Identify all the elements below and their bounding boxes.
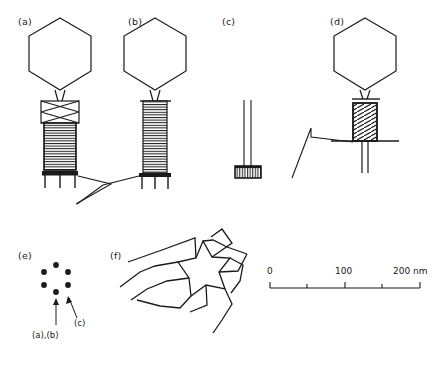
annotation-arrow-c xyxy=(66,296,77,318)
capsid-head-a xyxy=(29,18,91,90)
tail-sheath-a xyxy=(44,123,76,170)
subunit-dot xyxy=(65,269,71,275)
phage-diagram-svg xyxy=(0,0,439,374)
collar-a xyxy=(41,101,79,123)
tail-sheath-b xyxy=(143,101,167,173)
panel-c-tail-tube xyxy=(235,100,261,178)
panel-label-c: (c) xyxy=(222,16,235,27)
panel-e-cross-section xyxy=(41,262,77,325)
annotation-label-ab: (a),(b) xyxy=(32,330,59,340)
figure-canvas: (a) (b) (c) (d) (e) (f) (a),(b) (c) 0 10… xyxy=(0,0,439,374)
subunit-dot xyxy=(53,262,59,268)
tail-fiber-b xyxy=(77,176,139,204)
tail-fiber-d xyxy=(292,128,353,178)
tail-pins-b xyxy=(142,177,168,189)
pinwheel-arm-f xyxy=(128,238,196,262)
neck-d xyxy=(360,90,370,99)
subunit-dot xyxy=(53,289,59,295)
annotation-label-c: (c) xyxy=(74,318,85,328)
contracted-sheath-d xyxy=(353,103,377,141)
panel-label-e: (e) xyxy=(18,250,32,261)
panel-label-f: (f) xyxy=(110,250,121,261)
neck-b xyxy=(150,90,160,101)
scale-label-200nm: 200 nm xyxy=(393,266,428,276)
pinwheel-arm-f xyxy=(120,262,178,287)
capsid-head-b xyxy=(124,18,186,90)
subunit-dot xyxy=(41,269,47,275)
panel-a-phage xyxy=(29,18,111,204)
panel-d-phage-contracted xyxy=(292,18,399,178)
panel-label-d: (d) xyxy=(330,16,344,27)
pinwheel-arm-f xyxy=(131,278,189,300)
panel-f-base-plate-star xyxy=(120,229,247,333)
scale-label-100: 100 xyxy=(335,266,352,276)
pinwheel-arm-f xyxy=(213,289,232,333)
pinwheel-arm-f xyxy=(230,258,243,293)
annotation-arrow-ab xyxy=(53,298,59,325)
panel-label-b: (b) xyxy=(128,16,142,27)
tail-pins-a xyxy=(45,175,75,188)
neck-a xyxy=(55,90,65,101)
scale-label-0: 0 xyxy=(267,266,273,276)
tail-fiber-a xyxy=(76,176,111,204)
subunit-dot xyxy=(65,282,71,288)
base-plate-a xyxy=(42,171,78,176)
base-plate-b xyxy=(139,173,171,177)
panel-label-a: (a) xyxy=(18,16,32,27)
pinwheel-arm-f xyxy=(211,229,232,257)
panel-b-phage xyxy=(77,18,186,204)
capsid-head-d xyxy=(334,18,396,90)
pinwheel-arm-f xyxy=(137,296,191,308)
scale-bar xyxy=(270,282,420,288)
pinwheel-arm-f xyxy=(190,285,207,312)
subunit-dot xyxy=(41,282,47,288)
